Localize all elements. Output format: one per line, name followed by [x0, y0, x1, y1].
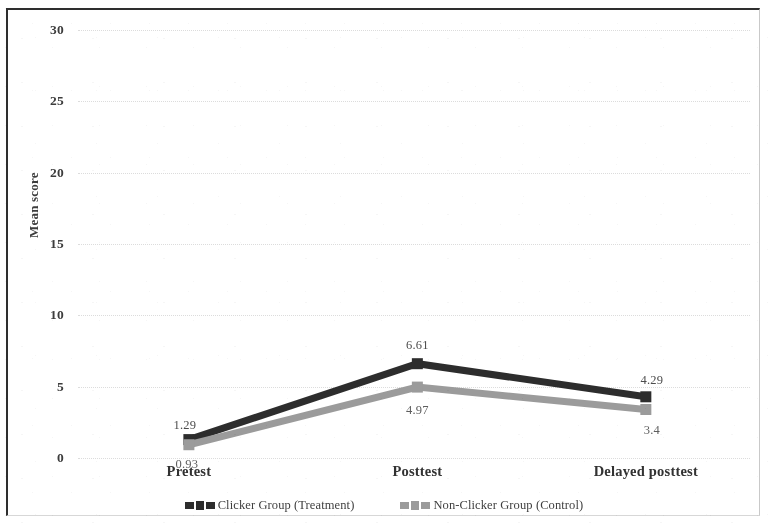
x-axis-tick-label: Delayed posttest — [594, 463, 698, 480]
legend-label: Clicker Group (Treatment) — [218, 498, 355, 513]
legend-marker-icon — [196, 501, 204, 510]
data-point-label: 1.29 — [174, 418, 197, 433]
y-axis-title: Mean score — [26, 172, 42, 238]
data-point-label: 6.61 — [406, 338, 429, 353]
legend-swatch-icon — [185, 502, 215, 509]
data-point-label: 4.29 — [640, 373, 663, 388]
x-axis-tick-labels: PretestPosttestDelayed posttest — [78, 463, 750, 487]
x-axis-tick-label: Posttest — [392, 463, 442, 480]
series-lines — [78, 30, 750, 458]
y-axis-tick-label: 5 — [24, 379, 64, 395]
data-point-label: 3.4 — [644, 423, 660, 438]
y-axis-tick-label: 15 — [24, 236, 64, 252]
legend-swatch-icon — [400, 502, 430, 509]
y-axis-tick-label: 0 — [24, 450, 64, 466]
y-axis-tick-label: 25 — [24, 93, 64, 109]
data-point-marker — [640, 391, 651, 402]
data-point-marker — [183, 439, 194, 450]
legend-marker-icon — [411, 501, 419, 510]
legend-label: Non-Clicker Group (Control) — [433, 498, 583, 513]
x-axis-tick-label: Pretest — [167, 463, 212, 480]
legend-entry: Clicker Group (Treatment) — [185, 498, 355, 513]
data-point-label: 4.97 — [406, 403, 429, 418]
data-point-marker — [412, 358, 423, 369]
data-point-marker — [640, 404, 651, 415]
plot-area: 051015202530 1.296.614.290.934.973.4 — [78, 30, 750, 458]
legend-entry: Non-Clicker Group (Control) — [400, 498, 583, 513]
y-axis-tick-label: 10 — [24, 307, 64, 323]
y-axis-tick-label: 20 — [24, 165, 64, 181]
y-axis-tick-label: 30 — [24, 22, 64, 38]
chart-legend: Clicker Group (Treatment)Non-Clicker Gro… — [0, 498, 768, 513]
data-point-marker — [412, 382, 423, 393]
